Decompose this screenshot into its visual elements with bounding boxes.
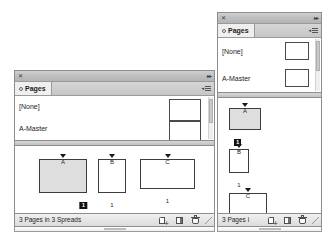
masters-scrollbar-thumb[interactable] bbox=[209, 99, 213, 123]
panel-statusbar: 3 Pages in 3 Spreads + bbox=[15, 213, 214, 226]
masters-scrollbar[interactable] bbox=[315, 39, 320, 91]
drag-dots-icon bbox=[104, 228, 126, 230]
tab-pages[interactable]: Pages bbox=[15, 82, 52, 95]
masters-section[interactable]: [None] A-Master bbox=[15, 96, 214, 140]
page-master-letter: B bbox=[99, 159, 125, 166]
page-thumbnail[interactable]: A bbox=[39, 159, 87, 193]
pages-tab-icon bbox=[222, 29, 226, 33]
a-master-thumbnail[interactable] bbox=[285, 69, 309, 87]
master-name: [None] bbox=[15, 103, 40, 111]
page-number-wrap: 1 bbox=[39, 193, 87, 211]
tabrow-controls[interactable]: ◂ bbox=[201, 82, 211, 95]
master-row[interactable]: [None] bbox=[15, 96, 214, 118]
master-row[interactable]: A-Master bbox=[15, 118, 214, 140]
page-item[interactable]: A 1 bbox=[229, 108, 261, 148]
page-master-letter: A bbox=[40, 159, 86, 166]
panel-menu-icon[interactable] bbox=[205, 86, 211, 92]
double-chevron-collapse-icon[interactable]: ▸▸ bbox=[207, 73, 211, 79]
page-item[interactable]: C 1 bbox=[140, 159, 195, 207]
a-master-thumbnail[interactable] bbox=[169, 121, 201, 140]
master-marker-icon bbox=[109, 154, 115, 158]
new-spread-icon[interactable] bbox=[283, 216, 292, 225]
page-thumbnail[interactable]: B bbox=[229, 149, 249, 173]
tab-pages-label: Pages bbox=[25, 85, 46, 93]
panel-titlebar[interactable]: ✕ ▸▸ bbox=[218, 13, 321, 24]
masters-scrollbar-thumb[interactable] bbox=[316, 41, 320, 71]
trash-icon[interactable] bbox=[191, 216, 200, 225]
tab-pages[interactable]: Pages bbox=[218, 24, 255, 37]
master-row[interactable]: [None] bbox=[218, 38, 321, 65]
page-number[interactable]: 1 bbox=[237, 182, 240, 188]
pages-section[interactable]: A 1 B 1 bbox=[218, 98, 321, 213]
page-number-wrap: 1 bbox=[229, 130, 261, 148]
panel-menu-icon[interactable] bbox=[312, 28, 318, 34]
master-name: A-Master bbox=[15, 125, 47, 133]
resize-grip[interactable] bbox=[205, 217, 212, 224]
masters-scrollbar[interactable] bbox=[208, 97, 213, 139]
status-text: 3 Pages i bbox=[222, 216, 268, 224]
page-thumbnail[interactable]: C bbox=[229, 193, 267, 213]
new-page-icon[interactable]: + bbox=[268, 216, 277, 225]
page-item[interactable]: C 1 bbox=[229, 193, 267, 213]
master-marker-icon bbox=[236, 144, 242, 148]
panel-tabrow[interactable]: Pages ◂ bbox=[218, 24, 321, 38]
page-master-letter: C bbox=[141, 159, 194, 166]
close-icon[interactable]: ✕ bbox=[18, 73, 23, 79]
page-number[interactable]: 1 bbox=[166, 198, 169, 204]
page-thumbnail[interactable]: A bbox=[229, 108, 261, 130]
page-number-wrap: 1 bbox=[98, 193, 126, 211]
page-number-badge[interactable]: 1 bbox=[80, 202, 87, 209]
page-number-wrap: 1 bbox=[140, 189, 195, 207]
page-master-letter: A bbox=[230, 108, 260, 115]
screenshot-root: ✕ ▸▸ Pages ◂ [None] A-Master bbox=[0, 0, 333, 244]
double-chevron-collapse-icon[interactable]: ▸▸ bbox=[314, 15, 318, 21]
status-buttons[interactable]: + bbox=[268, 216, 309, 225]
drag-dots-icon bbox=[259, 228, 281, 230]
master-marker-icon bbox=[60, 154, 66, 158]
page-master-letter: C bbox=[230, 193, 266, 200]
status-text: 3 Pages in 3 Spreads bbox=[19, 216, 159, 224]
tabrow-controls[interactable]: ◂ bbox=[308, 24, 318, 37]
tab-pages-label: Pages bbox=[228, 27, 249, 35]
status-buttons[interactable]: + bbox=[159, 216, 202, 225]
master-marker-icon bbox=[165, 154, 171, 158]
pages-panel-wide[interactable]: ✕ ▸▸ Pages ◂ [None] A-Master bbox=[14, 70, 215, 227]
panel-drag-strip-narrow[interactable] bbox=[217, 227, 322, 232]
master-name: [None] bbox=[218, 48, 243, 56]
page-item[interactable]: B 1 bbox=[229, 149, 249, 191]
new-spread-icon[interactable] bbox=[175, 216, 184, 225]
none-master-thumbnail[interactable] bbox=[285, 42, 309, 60]
page-thumbnail[interactable]: C bbox=[140, 159, 195, 189]
page-master-letter: B bbox=[230, 149, 248, 156]
master-name: A-Master bbox=[218, 75, 250, 83]
pages-panel-narrow[interactable]: ✕ ▸▸ Pages ◂ [None] A-Master bbox=[217, 12, 322, 227]
master-row[interactable]: A-Master bbox=[218, 65, 321, 92]
masters-section[interactable]: [None] A-Master bbox=[218, 38, 321, 92]
resize-grip[interactable] bbox=[312, 217, 319, 224]
chevron-left-icon[interactable]: ◂ bbox=[308, 28, 311, 33]
close-icon[interactable]: ✕ bbox=[221, 15, 226, 21]
master-marker-icon bbox=[245, 188, 251, 192]
page-number[interactable]: 1 bbox=[110, 202, 113, 208]
panel-statusbar: 3 Pages i + bbox=[218, 213, 321, 226]
pages-section[interactable]: A 1 B 1 bbox=[15, 146, 214, 213]
master-marker-icon bbox=[242, 103, 248, 107]
new-page-icon[interactable]: + bbox=[159, 216, 168, 225]
panel-titlebar[interactable]: ✕ ▸▸ bbox=[15, 71, 214, 82]
panel-drag-strip-wide[interactable] bbox=[14, 227, 215, 232]
page-thumbnail[interactable]: B bbox=[98, 159, 126, 193]
panel-tabrow[interactable]: Pages ◂ bbox=[15, 82, 214, 96]
page-item[interactable]: A 1 bbox=[39, 159, 87, 211]
page-item[interactable]: B 1 bbox=[98, 159, 126, 211]
pages-tab-icon bbox=[19, 87, 23, 91]
trash-icon[interactable] bbox=[298, 216, 307, 225]
chevron-left-icon[interactable]: ◂ bbox=[201, 86, 204, 91]
